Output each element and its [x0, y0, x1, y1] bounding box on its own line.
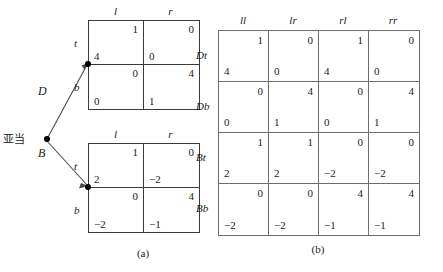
sf-cell-db-rl-col-payoff: 0	[358, 85, 364, 97]
table-row: 0 0	[219, 82, 269, 133]
sf-col-header-lr: lr	[268, 14, 318, 26]
sf-cell-bb-lr-row-payoff: −2	[274, 219, 286, 231]
strategic-form-table-part-b: ll lr rl rr Dt Db Bt Bb 1 4 0 0 1 4 0 0	[218, 30, 420, 236]
sf-cell-dt-ll-col-payoff: 1	[258, 34, 264, 46]
sf-cell-bb-rl-row-payoff: −1	[324, 219, 336, 231]
sf-row-header-db: Db	[196, 100, 216, 112]
matrix-d-cell-tr-row-payoff: 0	[149, 50, 155, 62]
matrix-b-cell-tl: 1 2	[89, 144, 144, 188]
sf-cell-bb-rl-col-payoff: 4	[358, 187, 364, 199]
matrix-d-cell-bl-col-payoff: 0	[133, 67, 139, 79]
matrix-d-grid: 1 4 0 0 0 0 4 1	[88, 20, 200, 110]
table-row: 0 −2	[369, 133, 419, 184]
matrix-d-cell-br-col-payoff: 4	[189, 67, 195, 79]
table-row: 0 0	[319, 82, 369, 133]
sf-cell-bb-ll-col-payoff: 0	[258, 187, 264, 199]
table-row: 0 −2	[269, 184, 319, 235]
matrix-b-cell-tr-col-payoff: 0	[189, 146, 195, 158]
sf-row-header-bb: Bb	[196, 202, 216, 214]
sf-cell-db-ll-col-payoff: 0	[258, 85, 264, 97]
matrix-d-cell-tl-col-payoff: 1	[133, 23, 139, 35]
matrix-d-row-header-t: t	[74, 37, 77, 49]
sf-cell-db-rr-col-payoff: 4	[409, 85, 415, 97]
matrix-d-cell-tl-row-payoff: 4	[94, 50, 100, 62]
sf-cell-dt-rr-col-payoff: 0	[409, 34, 415, 46]
matrix-b-cell-br-row-payoff: −1	[149, 218, 161, 230]
matrix-b-row-header-t: t	[74, 160, 77, 172]
table-row: 0 0	[369, 31, 419, 82]
matrix-b-cell-bl-row-payoff: −2	[94, 218, 106, 230]
edge-label-d: D	[38, 84, 47, 99]
sf-cell-bt-rl-col-payoff: 0	[358, 136, 364, 148]
sf-cell-bt-ll-row-payoff: 2	[224, 167, 230, 179]
matrix-b-cell-br: 4 −1	[144, 188, 199, 232]
caption-b: (b)	[268, 243, 368, 255]
matrix-d-attach-node	[85, 61, 91, 67]
table-row: 0 −2	[219, 184, 269, 235]
sf-cell-db-lr-row-payoff: 1	[274, 116, 280, 128]
sf-grid: 1 4 0 0 1 4 0 0 0 0 4 1	[218, 30, 420, 236]
sf-cell-bt-lr-col-payoff: 1	[308, 136, 314, 148]
matrix-b-cell-tr-row-payoff: −2	[149, 173, 161, 185]
sf-col-header-rr: rr	[368, 14, 418, 26]
matrix-d-cell-bl: 0 0	[89, 65, 144, 109]
sf-cell-bt-rr-row-payoff: −2	[374, 167, 386, 179]
matrix-b-col-header-r: r	[143, 128, 198, 140]
matrix-b-cell-tl-row-payoff: 2	[94, 173, 100, 185]
sf-col-header-rl: rl	[318, 14, 368, 26]
sf-cell-dt-rr-row-payoff: 0	[374, 65, 380, 77]
table-row: 0 0	[269, 31, 319, 82]
table-row: 4 −1	[369, 184, 419, 235]
table-row: 0 −2	[319, 133, 369, 184]
sf-row-header-dt: Dt	[196, 49, 216, 61]
table-row: 1 4	[319, 31, 369, 82]
game-tree-part-a: 亚当 D B l r t b 1 4 0 0 0 0	[0, 0, 215, 250]
table-row: 1 2	[269, 133, 319, 184]
matrix-b-col-header-l: l	[88, 128, 143, 140]
matrix-b-cell-br-col-payoff: 4	[189, 190, 195, 202]
sf-cell-db-rl-row-payoff: 0	[324, 116, 330, 128]
matrix-b-cell-tr: 0 −2	[144, 144, 199, 188]
table-row: 1 2	[219, 133, 269, 184]
sf-cell-dt-ll-row-payoff: 4	[224, 65, 230, 77]
matrix-d-cell-bl-row-payoff: 0	[94, 95, 100, 107]
sf-cell-bt-lr-row-payoff: 2	[274, 167, 280, 179]
table-row: 1 4	[219, 31, 269, 82]
matrix-b-cell-tl-col-payoff: 1	[133, 146, 139, 158]
matrix-b-grid: 1 2 0 −2 0 −2 4 −1	[88, 143, 200, 233]
sf-cell-dt-lr-col-payoff: 0	[308, 34, 314, 46]
sf-cell-db-ll-row-payoff: 0	[224, 116, 230, 128]
matrix-d-cell-tr: 0 0	[144, 21, 199, 65]
sf-row-header-bt: Bt	[196, 151, 216, 163]
edge-line-b	[47, 141, 88, 186]
sf-cell-dt-rl-col-payoff: 1	[358, 34, 364, 46]
sf-col-header-ll: ll	[218, 14, 268, 26]
figure-root: 亚当 D B l r t b 1 4 0 0 0 0	[0, 0, 443, 272]
matrix-b-row-header-b: b	[74, 204, 80, 216]
table-row: 4 1	[269, 82, 319, 133]
matrix-d-row-header-b: b	[74, 81, 80, 93]
edge-label-b: B	[38, 146, 45, 161]
matrix-d-col-header-l: l	[88, 5, 143, 17]
edge-line-d	[47, 63, 88, 139]
sf-cell-dt-rl-row-payoff: 4	[324, 65, 330, 77]
caption-a: (a)	[88, 247, 198, 259]
sf-cell-bb-ll-row-payoff: −2	[224, 219, 236, 231]
table-row: 4 −1	[319, 184, 369, 235]
matrix-d-cell-br-row-payoff: 1	[149, 95, 155, 107]
root-node-dot	[44, 136, 50, 142]
matrix-d-cell-br: 4 1	[144, 65, 199, 109]
sf-cell-bb-rr-row-payoff: −1	[374, 219, 386, 231]
matrix-b-attach-node	[85, 184, 91, 190]
matrix-b-cell-bl: 0 −2	[89, 188, 144, 232]
matrix-d-col-header-r: r	[143, 5, 198, 17]
sf-cell-bb-rr-col-payoff: 4	[409, 187, 415, 199]
matrix-b-cell-bl-col-payoff: 0	[133, 190, 139, 202]
sf-cell-bt-rr-col-payoff: 0	[409, 136, 415, 148]
root-player-label: 亚当	[3, 130, 25, 146]
sf-cell-dt-lr-row-payoff: 0	[274, 65, 280, 77]
matrix-d-cell-tl: 1 4	[89, 21, 144, 65]
sf-cell-bt-rl-row-payoff: −2	[324, 167, 336, 179]
sf-cell-db-rr-row-payoff: 1	[374, 116, 380, 128]
sf-cell-bt-ll-col-payoff: 1	[258, 136, 264, 148]
